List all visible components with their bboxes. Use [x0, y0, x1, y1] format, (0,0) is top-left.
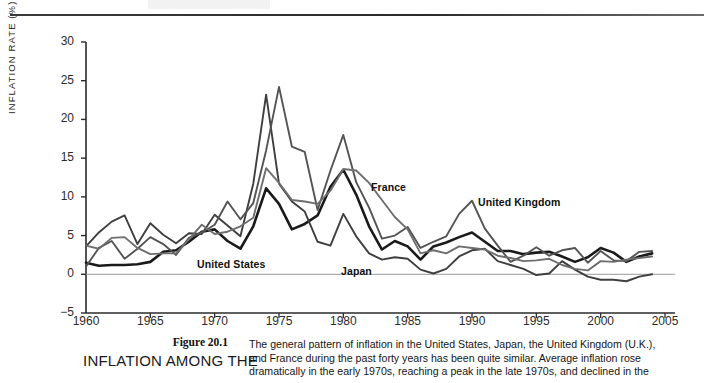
caption-left: Figure 20.1 INFLATION AMONG THE [0, 336, 228, 369]
x-tick-1960: 1960 [63, 314, 109, 328]
series-label-france: France [371, 181, 406, 193]
x-tick-2005: 2005 [642, 314, 688, 328]
figure-page: INFLATION RATE (%) −5051015202530 196019… [0, 0, 713, 383]
x-tick-2000: 2000 [578, 314, 624, 328]
series-label-japan: Japan [341, 265, 372, 277]
x-tick-1965: 1965 [127, 314, 173, 328]
figure-title: INFLATION AMONG THE [30, 352, 258, 369]
x-tick-1985: 1985 [385, 314, 431, 328]
caption-line-1: The general pattern of inflation in the … [249, 338, 709, 352]
chart-plot-area [0, 22, 713, 334]
inflation-line-chart: INFLATION RATE (%) −5051015202530 196019… [0, 22, 713, 334]
x-tick-1995: 1995 [513, 314, 559, 328]
caption-line-3: dramatically in the early 1970s, reachin… [249, 365, 709, 379]
caption-body: The general pattern of inflation in the … [249, 338, 709, 379]
figure-number: Figure 20.1 [0, 336, 228, 348]
top-horizontal-rule [10, 14, 704, 16]
caption-line-2: and France during the past forty years h… [249, 352, 709, 366]
figure-caption: Figure 20.1 INFLATION AMONG THE The gene… [0, 336, 713, 383]
series-line-france [86, 168, 652, 270]
x-tick-1980: 1980 [320, 314, 366, 328]
page-top-artifact [148, 0, 270, 9]
x-tick-1970: 1970 [192, 314, 238, 328]
series-label-united-kingdom: United Kingdom [478, 196, 560, 208]
series-label-united-states: United States [197, 258, 265, 270]
x-tick-1975: 1975 [256, 314, 302, 328]
x-tick-1990: 1990 [449, 314, 495, 328]
x-axis-ticks: 1960196519701975198019851990199520002005 [0, 314, 713, 334]
